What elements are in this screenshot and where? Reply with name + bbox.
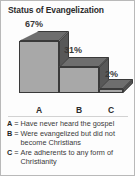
legend: A = Have never heard the gospel B = Were… xyxy=(7,119,133,167)
legend-text-b: Were evangelized but did not become Chri… xyxy=(21,129,133,147)
legend-item-b: B = Were evangelized but did not become … xyxy=(7,129,133,147)
bar-c-front-face xyxy=(99,89,123,93)
axis-label-a: A xyxy=(30,105,48,115)
legend-text-c: Are adherents to any form of Christianit… xyxy=(21,148,133,166)
legend-key-a: A xyxy=(7,119,14,128)
axis-label-c: C xyxy=(102,105,120,115)
bar-chart-plot-area: 67% 31% 2% xyxy=(1,17,135,105)
legend-key-c: C xyxy=(7,148,14,157)
legend-divider xyxy=(8,116,128,117)
evangelization-chart-panel: Status of Evangelization 67% 31% 2% A B … xyxy=(0,0,135,176)
legend-key-b: B xyxy=(7,129,14,138)
bar-b-front-face xyxy=(59,67,99,93)
bar-a-front-face xyxy=(19,41,59,93)
bar-a-value-label: 67% xyxy=(25,19,43,29)
bar-c xyxy=(99,79,123,93)
bar-b-value-label: 31% xyxy=(64,45,82,55)
legend-item-c: C = Are adherents to any form of Christi… xyxy=(7,148,133,166)
legend-item-a: A = Have never heard the gospel xyxy=(7,119,133,128)
legend-text-a: Have never heard the gospel xyxy=(21,119,133,128)
axis-label-b: B xyxy=(70,105,88,115)
page-title: Status of Evangelization xyxy=(8,5,104,15)
bar-c-value-label: 2% xyxy=(105,69,118,79)
